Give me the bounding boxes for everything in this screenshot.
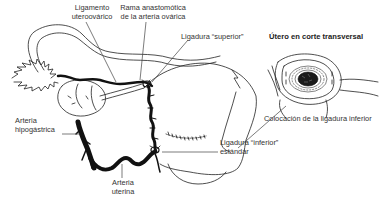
cross-section-inset (268, 54, 378, 118)
uterus-body (146, 63, 256, 184)
uterine-ligation-diagram: Ligamento uteroovárico Rama anastomótica… (0, 0, 386, 198)
label-ligadura-superior: Ligadura “superior” (181, 32, 243, 41)
fimbriae (12, 59, 58, 91)
label-line: Arteria (15, 116, 55, 125)
label-line: estándar (220, 147, 278, 156)
label-rama-anastomotica: Rama anastomótica de la arteria ovárica (117, 3, 189, 21)
label-line: Arteria (108, 178, 138, 187)
label-line: Ligadura “inferior” (220, 138, 278, 147)
label-line: Ligamento (66, 3, 118, 12)
utero-ovarian-ligament (100, 84, 144, 100)
uterine-artery-branch-down (154, 152, 160, 172)
label-arteria-hipogastrica: Arteria hipogástrica (15, 116, 55, 134)
label-ligamento-uteroovarico: Ligamento uteroovárico (66, 3, 118, 21)
label-line: de la arteria ovárica (117, 12, 189, 21)
inset-title: Útero en corte transversal (269, 32, 363, 41)
label-arteria-uterina: Arteria uterina (108, 178, 138, 196)
label-line: Rama anastomótica (117, 3, 189, 12)
label-line: Ligadura “superior” (181, 32, 243, 41)
inset-caption: Colocación de la ligadura inferior (264, 114, 372, 123)
suture-stitches (168, 132, 205, 140)
label-line: uteroovárico (66, 12, 118, 21)
ovary (58, 80, 106, 116)
label-line: hipogástrica (15, 125, 55, 134)
diagram-illustration (0, 0, 386, 198)
label-line: uterina (108, 187, 138, 196)
label-ligadura-inferior: Ligadura “inferior” estándar (220, 138, 278, 156)
